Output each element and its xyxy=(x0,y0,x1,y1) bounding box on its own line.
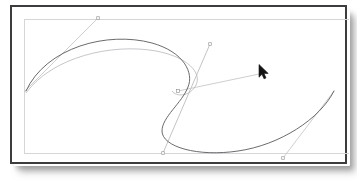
control-point-upper-left[interactable] xyxy=(97,17,100,20)
application-window xyxy=(0,0,357,177)
handle-line-to-cursor[interactable] xyxy=(178,73,264,91)
document-window-frame xyxy=(10,5,347,164)
vector-drawing-canvas[interactable] xyxy=(12,7,345,162)
anchor-point-selected[interactable] xyxy=(177,90,180,93)
handle-line-lower-right[interactable] xyxy=(283,91,334,158)
handle-line-through-anchor[interactable] xyxy=(163,44,210,153)
handle-lines-group xyxy=(24,18,334,158)
primary-bezier-path[interactable] xyxy=(26,39,334,153)
control-point-lower-left[interactable] xyxy=(162,152,165,155)
secondary-preview-path[interactable] xyxy=(26,49,197,95)
control-point-lower-right[interactable] xyxy=(282,157,285,160)
control-point-upper-right[interactable] xyxy=(209,43,212,46)
